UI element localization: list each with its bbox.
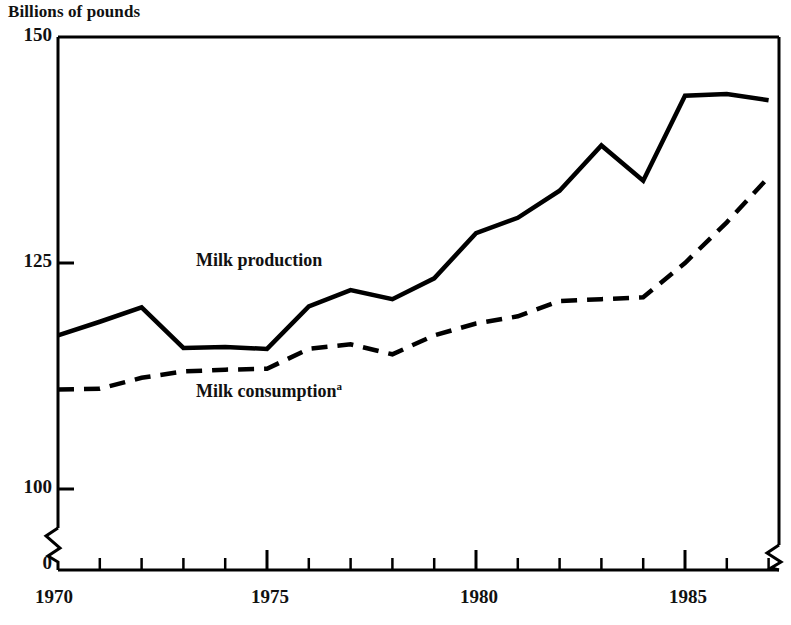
chart-plot-area — [0, 0, 791, 625]
milk-production-consumption-chart: Billions of pounds 150 125 100 0 1970 19… — [0, 0, 791, 625]
series-line-consumption — [58, 177, 769, 389]
series-line-production — [58, 94, 769, 349]
y-axis-break-mark — [46, 528, 60, 570]
